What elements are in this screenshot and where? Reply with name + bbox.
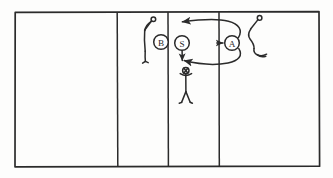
marker-s[interactable]: S: [175, 36, 190, 51]
court-line-1: [117, 12, 118, 166]
marker-a-label: A: [229, 39, 236, 49]
marker-b-label: B: [158, 38, 164, 48]
arrow-a-to-left-top: [182, 20, 240, 38]
marker-b[interactable]: B: [154, 35, 169, 50]
court-division-lines: [117, 12, 219, 167]
marker-a[interactable]: A: [225, 36, 240, 51]
player-right-attacker: [249, 16, 267, 57]
marker-s-label: S: [179, 39, 184, 49]
player-center-receiver: [179, 67, 192, 103]
diagram-scene: B S A: [0, 0, 333, 178]
court-outline: [15, 12, 320, 167]
court-diagram: B S A: [0, 0, 333, 178]
